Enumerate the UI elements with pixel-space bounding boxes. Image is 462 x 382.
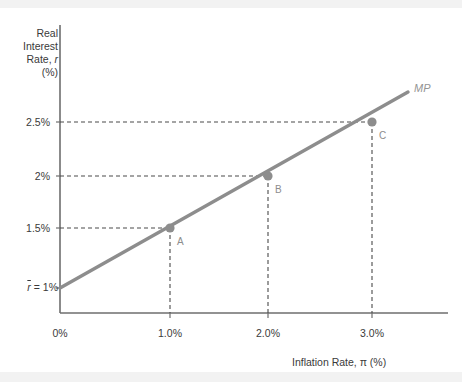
y-tick-label-2.5: 2.5% — [4, 116, 50, 129]
x-axis-title: Inflation Rate, π (%) — [292, 356, 386, 369]
mp-curve-label: MP — [414, 82, 431, 95]
point-label-a: A — [177, 235, 184, 248]
x-tick-label-2.0: 2.0% — [238, 327, 298, 340]
data-point-a — [165, 223, 174, 232]
y-axis-title-line-3: Rate, r — [26, 53, 58, 65]
point-label-c: C — [379, 129, 386, 142]
plot-canvas — [0, 0, 462, 382]
x-tick-label-3.0: 3.0% — [342, 327, 402, 340]
r-bar-value: = 1% — [31, 281, 58, 293]
y-axis-title: Real Interest Rate, r (%) — [8, 27, 58, 79]
x-tick-label-1.0: 1.0% — [140, 327, 200, 340]
y-axis-title-line-1: Real — [36, 27, 58, 39]
r-bar-intercept-label: r = 1% — [10, 281, 58, 294]
y-tick-label-1.5: 1.5% — [4, 222, 50, 235]
point-label-b: B — [275, 183, 282, 196]
y-axis-title-line-2: Interest — [23, 40, 58, 52]
y-axis-title-line-4: (%) — [42, 66, 58, 78]
y-tick-label-2: 2% — [4, 170, 50, 183]
mp-curve-line — [60, 92, 408, 288]
data-point-c — [367, 117, 376, 126]
monetary-policy-curve-figure: Real Interest Rate, r (%) 2.5% 2% 1.5% r… — [0, 0, 462, 382]
data-point-b — [263, 171, 272, 180]
x-tick-label-0: 0% — [30, 327, 90, 340]
